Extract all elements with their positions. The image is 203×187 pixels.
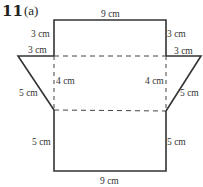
label-left-middle: 4 cm xyxy=(56,76,75,86)
label-top-right-height: 3 cm xyxy=(167,29,186,39)
bottom-rectangle xyxy=(54,110,166,171)
label-top-left-height: 3 cm xyxy=(31,29,50,39)
top-rectangle xyxy=(54,20,166,56)
label-right-middle: 4 cm xyxy=(145,76,164,86)
label-right-flap-top: 3 cm xyxy=(174,46,193,56)
fold-line-bottom xyxy=(54,110,166,111)
net-diagram: 9 cm 3 cm 3 cm 3 cm 3 cm 4 cm 4 cm 5 cm … xyxy=(0,0,203,187)
label-top-width: 9 cm xyxy=(101,9,120,19)
label-bottom-left-height: 5 cm xyxy=(32,137,51,147)
label-left-slant: 5 cm xyxy=(19,88,38,98)
label-left-flap-top: 3 cm xyxy=(28,45,47,55)
label-bottom-width: 9 cm xyxy=(100,176,119,186)
left-flap xyxy=(18,56,54,110)
label-bottom-right-height: 5 cm xyxy=(167,137,186,147)
label-right-slant: 5 cm xyxy=(180,88,199,98)
right-flap xyxy=(166,56,201,111)
